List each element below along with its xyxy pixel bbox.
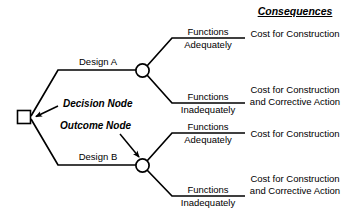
outcome-node-annotation: Outcome Node bbox=[60, 120, 131, 131]
decision-tree-diagram: Consequences Design A Design B Decision … bbox=[0, 0, 346, 223]
branch-label-b-inadequately-bottom: Inadequately bbox=[181, 197, 235, 208]
branch-label-a-inadequately-top: Functions bbox=[187, 91, 228, 102]
consequences-header: Consequences bbox=[258, 6, 333, 17]
branch-label-a-inadequately-bottom: Inadequately bbox=[181, 104, 235, 115]
consequence-a-inadequately: Cost for Construction and Corrective Act… bbox=[249, 84, 341, 107]
consequence-b-adequately: Cost for Construction bbox=[249, 128, 341, 140]
outcome-node-arrow bbox=[120, 134, 139, 157]
consequence-b-inadequately: Cost for Construction and Corrective Act… bbox=[249, 173, 341, 196]
branch-label-b-adequately-bottom: Adequately bbox=[184, 134, 232, 145]
decision-label-design-b: Design B bbox=[79, 151, 118, 162]
decision-node-square bbox=[18, 111, 31, 124]
branch-label-a-adequately-bottom: Adequately bbox=[184, 39, 232, 50]
decision-node-annotation: Decision Node bbox=[63, 98, 132, 109]
design-a-trunk-line bbox=[31, 70, 137, 116]
consequence-a-adequately: Cost for Construction bbox=[249, 28, 341, 40]
decision-node-arrow bbox=[36, 106, 58, 117]
branch-label-b-inadequately-top: Functions bbox=[187, 184, 228, 195]
branch-label-a-adequately-top: Functions bbox=[187, 26, 228, 37]
decision-label-design-a: Design A bbox=[79, 56, 117, 67]
branch-label-b-adequately-top: Functions bbox=[187, 121, 228, 132]
